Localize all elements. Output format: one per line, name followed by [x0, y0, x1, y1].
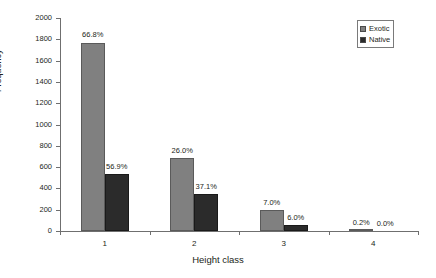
x-tick-label: 1 — [103, 240, 107, 248]
bar-exotic-class-4[interactable] — [349, 229, 373, 231]
bar-value-label: 6.0% — [287, 214, 304, 222]
y-tick-label: 1800 — [0, 36, 52, 44]
bar-chart: Frequency 020040060080010001200140016001… — [0, 0, 436, 278]
y-tick-label: 1400 — [0, 78, 52, 86]
y-tick-label: 600 — [0, 163, 52, 171]
y-tick-label: 800 — [0, 142, 52, 150]
chart-legend: Exotic Native — [357, 20, 394, 48]
bar-value-label: 26.0% — [172, 147, 193, 155]
x-axis-title: Height class — [0, 255, 436, 265]
y-tick-label: 0 — [0, 227, 52, 235]
bar-native-class-1[interactable] — [105, 174, 129, 231]
x-tick-label: 2 — [192, 240, 196, 248]
bar-value-label: 7.0% — [263, 199, 280, 207]
y-tick-label: 1600 — [0, 57, 52, 65]
bar-value-label: 66.8% — [82, 31, 103, 39]
bar-value-label: 37.1% — [196, 183, 217, 191]
plot-area: 66.8%56.9%26.0%37.1%7.0%6.0%0.2%0.0% — [60, 18, 418, 231]
y-tick-label: 200 — [0, 206, 52, 214]
legend-swatch-native-icon — [360, 37, 366, 43]
legend-label-exotic: Exotic — [369, 25, 389, 33]
legend-item-native[interactable]: Native — [360, 34, 390, 45]
bar-exotic-class-1[interactable] — [81, 43, 105, 232]
x-tick-label: 4 — [371, 240, 375, 248]
legend-swatch-exotic-icon — [360, 26, 366, 32]
x-tick-mark — [150, 231, 151, 235]
bar-native-class-2[interactable] — [194, 194, 218, 231]
x-tick-mark — [329, 231, 330, 235]
legend-item-exotic[interactable]: Exotic — [360, 23, 390, 34]
y-tick-label: 1200 — [0, 99, 52, 107]
y-tick-label: 2000 — [0, 14, 52, 22]
x-tick-mark — [60, 231, 61, 235]
y-tick-label: 400 — [0, 185, 52, 193]
x-tick-mark — [239, 231, 240, 235]
bar-exotic-class-2[interactable] — [170, 158, 194, 231]
bar-value-label: 0.0% — [377, 220, 394, 228]
x-tick-mark — [418, 231, 419, 235]
bar-native-class-3[interactable] — [284, 225, 308, 231]
y-tick-label: 1000 — [0, 121, 52, 129]
bar-value-label: 0.2% — [353, 219, 370, 227]
bar-exotic-class-3[interactable] — [260, 210, 284, 231]
bar-value-label: 56.9% — [106, 163, 127, 171]
x-tick-label: 3 — [282, 240, 286, 248]
legend-label-native: Native — [369, 36, 390, 44]
